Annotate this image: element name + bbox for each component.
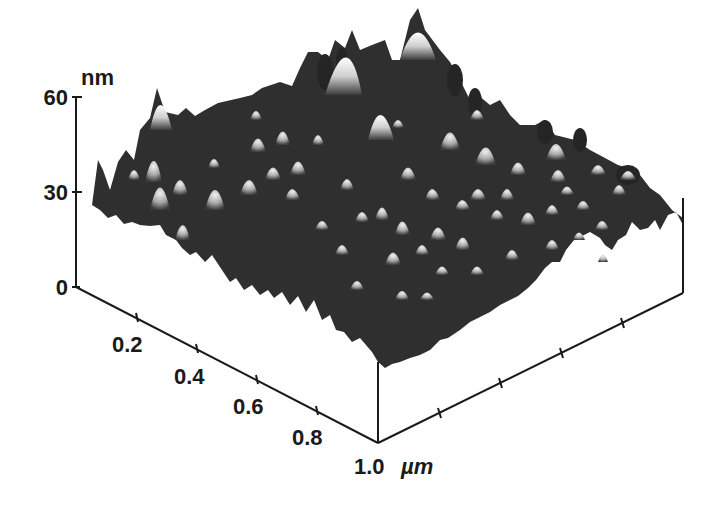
x-tick-label-0.4: 0.4 xyxy=(174,364,205,389)
x-tick-label-0.8: 0.8 xyxy=(292,425,323,450)
afm-surface-plot: nm 60 30 0 0.2 0.4 0.6 0.8 1.0 µm xyxy=(0,0,715,508)
z-tick-label-60: 60 xyxy=(44,85,68,110)
x-tick-label-1.0: 1.0 xyxy=(354,454,385,479)
z-tick-label-30: 30 xyxy=(44,180,68,205)
x-tick-label-0.2: 0.2 xyxy=(112,332,143,357)
z-unit-label: nm xyxy=(81,65,114,90)
x-unit-label: µm xyxy=(400,454,433,479)
x-tick-label-0.6: 0.6 xyxy=(233,394,264,419)
z-tick-label-0: 0 xyxy=(56,275,68,300)
